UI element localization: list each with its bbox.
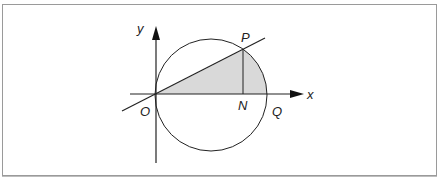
x-axis-arrow-icon xyxy=(290,90,304,98)
shaded-region xyxy=(156,50,290,94)
label-y: y xyxy=(136,21,145,36)
y-axis-arrow-icon xyxy=(152,26,160,40)
label-x: x xyxy=(306,87,314,102)
label-p: P xyxy=(241,30,250,45)
label-q: Q xyxy=(272,104,282,119)
label-o: O xyxy=(140,104,150,119)
geometry-diagram: y x O P N Q xyxy=(0,0,441,179)
label-n: N xyxy=(238,98,248,113)
